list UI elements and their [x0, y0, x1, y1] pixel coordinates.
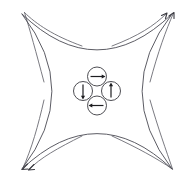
arrowhead-bottom-left-b	[29, 165, 35, 171]
ray-top-left-a	[25, 13, 45, 83]
astroid-top-arc	[22, 14, 172, 50]
astroid-left-arc	[22, 14, 52, 169]
ray-bottom-left-b	[29, 136, 82, 170]
ray-bottom-right-b	[112, 136, 173, 169]
astroid-outline	[22, 14, 172, 169]
ray-bottom-right-a	[150, 100, 173, 169]
figure-canvas	[0, 0, 194, 183]
spin-top	[88, 67, 107, 86]
ray-top-right-a	[112, 14, 167, 47]
spin-right	[102, 82, 121, 101]
corner-ray-group	[22, 13, 174, 171]
spin-bottom	[88, 96, 107, 115]
astroid-vortex-figure	[0, 0, 194, 183]
spin-cluster	[74, 67, 121, 115]
astroid-right-arc	[142, 14, 172, 169]
spin-left	[74, 82, 93, 101]
astroid-bottom-arc	[22, 134, 172, 170]
